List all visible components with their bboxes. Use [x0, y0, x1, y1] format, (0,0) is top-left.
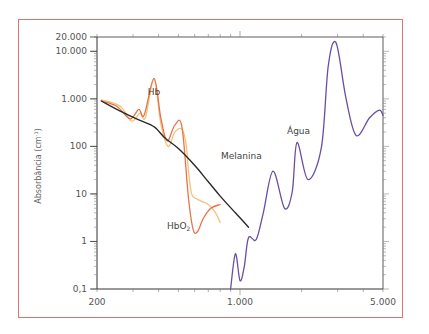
series-melanina-line: [101, 101, 248, 227]
y-tick-label: 10.000: [56, 46, 88, 56]
y-tick-label: 10: [76, 189, 88, 199]
x-tick-label: 5.000: [370, 297, 396, 307]
series-hbo2-line: [101, 79, 220, 222]
y-tick-label: 100: [70, 141, 87, 151]
x-tick-label: 1.000: [227, 297, 253, 307]
y-tick-label: 0,1: [73, 284, 87, 294]
series-hb-line: [101, 78, 220, 233]
y-tick-label: 1.000: [61, 94, 87, 104]
x-tick-label: 200: [88, 297, 105, 307]
y-tick-label: 20.000: [56, 32, 88, 42]
absorbance-chart: 20.00010.0001.0001001010,12001.0005.000 …: [0, 0, 429, 334]
label-hbo2: HbO2: [167, 221, 191, 232]
label-agua: Água: [287, 125, 310, 136]
axes: 20.00010.0001.0001001010,12001.0005.000: [56, 31, 397, 307]
y-axis-title: Absorbância (cm-1): [33, 128, 43, 203]
series-gua-line: [231, 41, 383, 289]
label-hb: Hb: [148, 87, 161, 97]
y-tick-label: 1: [81, 236, 87, 246]
label-melanina: Melanina: [221, 151, 262, 161]
series-group: [101, 41, 383, 289]
